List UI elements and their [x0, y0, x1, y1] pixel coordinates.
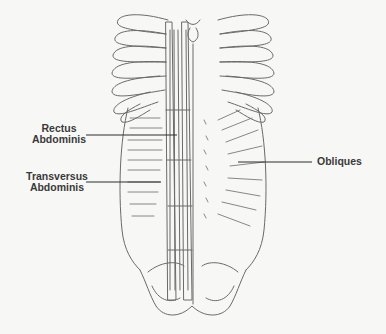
label-rectus-abdominis: Rectus Abdominis — [26, 123, 92, 145]
oblique-fibers — [204, 110, 264, 226]
label-transversus-abdominis: Transversus Abdominis — [22, 171, 92, 193]
transversus-fibers — [128, 118, 162, 216]
abdominal-muscles-illustration — [0, 0, 386, 334]
label-line: Obliques — [317, 156, 362, 167]
label-line: Abdominis — [22, 182, 92, 193]
label-line: Abdominis — [26, 134, 92, 145]
rectus-abdominis-fibers — [166, 22, 192, 300]
left-ribs — [112, 15, 168, 123]
label-obliques: Obliques — [317, 156, 362, 167]
right-ribs — [218, 15, 274, 123]
